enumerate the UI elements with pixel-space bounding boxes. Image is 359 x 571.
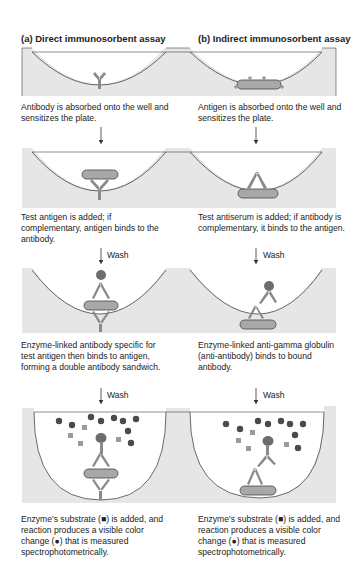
caption-b4: Enzyme's substrate (■) is added, and rea… bbox=[198, 514, 348, 558]
elisa-diagram: (a) Direct immunosorbent assay (b) Indir… bbox=[0, 0, 359, 571]
caption-a4: Enzyme's substrate (■) is added, and rea… bbox=[21, 514, 171, 558]
caption-b3: Enzyme-linked anti-gamma globulin (anti-… bbox=[198, 340, 348, 373]
caption-b1: Antigen is absorbed onto the well and se… bbox=[198, 102, 348, 124]
antigen-icon bbox=[234, 76, 284, 89]
well-panel-3 bbox=[0, 245, 359, 335]
title-indirect-assay: (b) Indirect immunosorbent assay bbox=[198, 33, 351, 44]
caption-a1: Antibody is absorbed onto the well and s… bbox=[21, 102, 171, 124]
caption-a2: Test antigen is added; if complementary,… bbox=[21, 212, 171, 245]
well-panel-4 bbox=[0, 385, 359, 505]
caption-b2: Test antiserum is added; if antibody is … bbox=[198, 212, 348, 234]
caption-a3: Enzyme-linked antibody specific for test… bbox=[21, 340, 171, 373]
title-direct-assay: (a) Direct immunosorbent assay bbox=[21, 33, 166, 44]
well-panel-2 bbox=[0, 125, 359, 210]
well-panel-1 bbox=[0, 45, 359, 97]
